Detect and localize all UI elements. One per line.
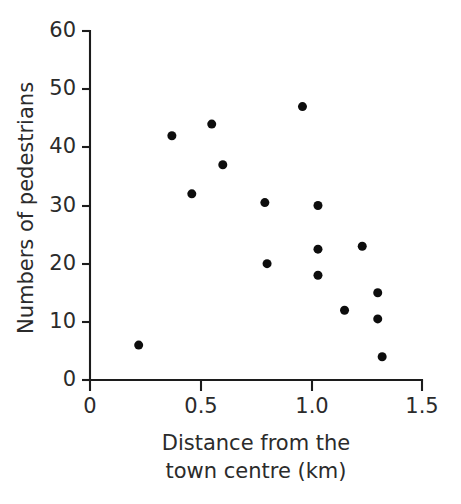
data-point [313,271,322,280]
data-points-layer [134,102,386,361]
y-tick-label-40: 40 [49,134,76,158]
data-point [134,341,143,350]
x-axis-title-line2: town centre (km) [165,459,346,483]
data-point [263,259,272,268]
data-point [218,160,227,169]
y-tick-label-50: 50 [49,76,76,100]
y-axis-tick-labels: 0 10 20 30 40 50 60 [49,18,76,391]
data-point [358,242,367,251]
x-axis-tick-labels: 0 0.5 1.0 1.5 [83,394,438,418]
y-axis-ticks [82,31,90,380]
data-point [313,201,322,210]
x-tick-label-1-0: 1.0 [295,394,328,418]
data-point [207,120,216,129]
y-tick-label-30: 30 [49,193,76,217]
y-tick-label-10: 10 [49,309,76,333]
y-tick-label-20: 20 [49,251,76,275]
x-tick-label-1-5: 1.5 [405,394,438,418]
data-point [373,314,382,323]
chart-canvas: 0 10 20 30 40 50 60 0 0.5 1.0 1.5 Number… [0,0,461,504]
data-point [378,352,387,361]
data-point [313,245,322,254]
scatter-chart: 0 10 20 30 40 50 60 0 0.5 1.0 1.5 Number… [0,0,461,504]
x-tick-label-0: 0 [83,394,96,418]
y-tick-label-60: 60 [49,18,76,42]
y-axis-title: Numbers of pedestrians [14,82,38,334]
data-point [260,198,269,207]
data-point [167,131,176,140]
x-tick-label-0-5: 0.5 [184,394,217,418]
data-point [340,306,349,315]
y-tick-label-0: 0 [63,367,76,391]
x-axis-ticks [90,380,422,391]
data-point [298,102,307,111]
x-axis-title-line1: Distance from the [162,431,351,455]
data-point [373,288,382,297]
data-point [187,189,196,198]
